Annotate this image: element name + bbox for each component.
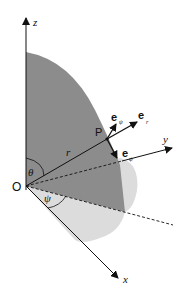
e-theta-subscript: ψ <box>119 119 123 125</box>
theta-label: θ <box>28 166 34 178</box>
psi-label: ψ <box>44 192 51 204</box>
e-theta-label: e <box>111 111 117 123</box>
z-axis-label: z <box>32 16 38 28</box>
origin-label: O <box>12 180 21 194</box>
dark-region <box>26 52 125 212</box>
e-psi-label: e <box>122 147 128 159</box>
e-r-subscript: r <box>146 119 149 125</box>
e-psi-subscript: ψ <box>129 156 133 162</box>
x-axis-label: x <box>122 273 128 285</box>
y-axis-label: y <box>162 133 168 145</box>
point-p-label: P <box>95 126 102 138</box>
spherical-coordinates-figure: z y x r θ ψ O P e r e ψ e ψ <box>0 0 185 303</box>
radius-label: r <box>66 146 71 158</box>
e-r-label: e <box>138 109 144 121</box>
